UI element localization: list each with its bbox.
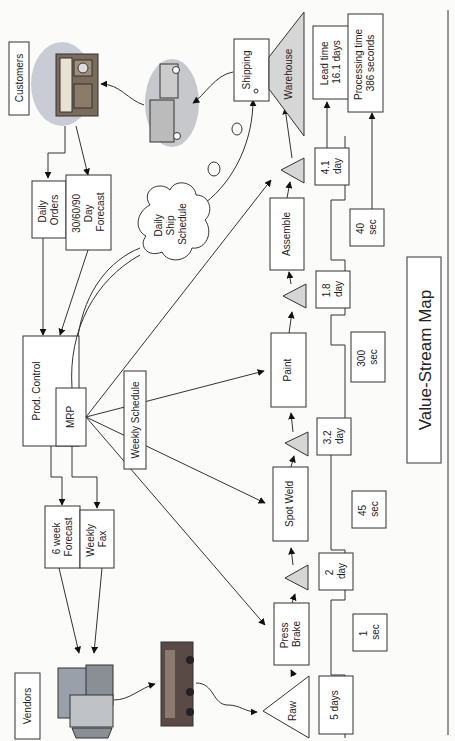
vendors-label-box: Vendors bbox=[15, 673, 40, 739]
process-time-45: 45 sec bbox=[352, 491, 386, 528]
paint-to-inv-arrow bbox=[289, 312, 292, 333]
warehouse-label: Warehouse bbox=[283, 48, 294, 99]
wait-3-line2: day bbox=[334, 428, 345, 444]
truck-to-raw-arrow bbox=[196, 683, 257, 712]
weekly-fax-line1: Weekly bbox=[85, 524, 96, 557]
truck-icon bbox=[145, 59, 199, 147]
svg-text:40 sec: 40 sec bbox=[355, 219, 378, 235]
raw-to-pressbrake-arrow bbox=[291, 670, 294, 676]
customers-label: Customers bbox=[14, 54, 25, 102]
customers-label-box: Customers bbox=[9, 42, 29, 115]
raw-label: Raw bbox=[287, 700, 298, 721]
ptime-1-line1: 1 bbox=[358, 630, 369, 636]
inventory-triangle-4 bbox=[281, 158, 304, 183]
map-title: Value-Stream Map bbox=[416, 290, 435, 430]
wait-5-line1: 4.1 bbox=[320, 160, 331, 174]
press-brake-line2: Brake bbox=[291, 621, 302, 648]
weekly-schedule-box: Weekly Schedule bbox=[124, 371, 146, 469]
title-box: Value-Stream Map bbox=[407, 257, 441, 463]
svg-text:Processing time 386 seco: Processing time 386 seconds bbox=[353, 26, 376, 100]
schedule-to-spotweld-arrow bbox=[86, 417, 265, 503]
customer-store-icon bbox=[31, 42, 98, 126]
raw-inventory-triangle: Raw bbox=[263, 676, 309, 738]
wait-time-4: 1.8 day bbox=[316, 271, 350, 308]
wait-4-line2: day bbox=[333, 281, 344, 297]
process-assemble: Assemble bbox=[270, 198, 304, 270]
processing-time-line2: 386 seconds bbox=[365, 35, 376, 92]
ptime-40-line1: 40 bbox=[355, 222, 366, 234]
vendor-truck-icon bbox=[161, 642, 194, 726]
inventory-triangle-1 bbox=[285, 565, 308, 590]
processing-time-box: Processing time 386 seconds bbox=[348, 14, 383, 112]
shipping-to-truck-arrow bbox=[193, 72, 233, 103]
forecast-line2: Day bbox=[83, 204, 94, 222]
process-press-brake: Press Brake bbox=[274, 603, 309, 665]
cloud-line3: Schedule bbox=[177, 203, 188, 245]
wait-4-line1: 1.8 bbox=[321, 283, 332, 297]
ptime-1-line2: sec bbox=[370, 624, 381, 640]
vendor-to-truck-arrow bbox=[114, 684, 155, 700]
assemble-label: Assemble bbox=[281, 212, 292, 256]
svg-text:1.8 day: 1.8 day bbox=[321, 281, 344, 298]
process-paint: Paint bbox=[271, 333, 306, 407]
process-spot-weld: Spot Weld bbox=[273, 467, 308, 541]
forecast-to-prodcontrol-arrow bbox=[60, 250, 88, 335]
lead-time-line1: Lead time bbox=[319, 41, 330, 85]
inv-to-paint-arrow bbox=[291, 413, 293, 432]
process-time-40: 40 sec bbox=[350, 209, 384, 246]
forecast-line3: Forecast bbox=[95, 192, 106, 231]
svg-text:3.2 day: 3.2 day bbox=[322, 428, 345, 445]
ptime-40-line2: sec bbox=[367, 219, 378, 235]
prodcontrol-to-6week-arrow bbox=[51, 446, 62, 505]
lead-time-box: Lead time 16.1 days bbox=[313, 26, 351, 99]
process-time-1: 1 sec bbox=[353, 614, 387, 651]
process-shipping: Shipping bbox=[234, 39, 269, 101]
6week-to-vendor-arrow bbox=[59, 568, 79, 653]
mrp-label: MRP bbox=[65, 406, 76, 429]
mrp-to-cloud-line bbox=[72, 255, 140, 388]
spot-weld-label: Spot Weld bbox=[284, 481, 295, 527]
svg-text:Daily Orders: Daily Orders bbox=[37, 195, 60, 226]
mrp-box: MRP bbox=[56, 388, 86, 446]
svg-text:300 sec: 300 sec bbox=[356, 347, 379, 366]
svg-text:6 week Forecast: 6 week Forecast bbox=[51, 517, 74, 556]
svg-text:Press Brake: Press Brake bbox=[279, 620, 302, 648]
weekly-fax-line2: Fax bbox=[97, 531, 108, 548]
cloud-line2: Ship bbox=[165, 215, 176, 235]
six-week-forecast-box: 6 week Forecast bbox=[45, 506, 80, 568]
paint-label: Paint bbox=[282, 358, 293, 381]
shipping-label: Shipping bbox=[241, 51, 252, 90]
ptime-300-line1: 300 bbox=[356, 350, 367, 367]
cloud-to-shipping-arrow bbox=[205, 100, 253, 203]
wait-3-line1: 3.2 bbox=[322, 430, 333, 444]
assemble-to-inv-arrow bbox=[287, 182, 290, 198]
daily-orders-line2: Orders bbox=[49, 195, 60, 226]
press-brake-line1: Press bbox=[279, 623, 290, 649]
schedule-to-paint-arrow bbox=[86, 371, 264, 417]
six-week-line1: 6 week bbox=[51, 522, 62, 555]
six-week-line2: Forecast bbox=[63, 517, 74, 556]
weekly-fax-box: Weekly Fax bbox=[80, 510, 114, 568]
daily-ship-schedule-cloud: Daily Ship Schedule bbox=[138, 183, 210, 260]
prod-control-label: Prod. Control bbox=[31, 362, 42, 421]
wait-time-5: 4.1 day bbox=[315, 148, 349, 185]
mrp-to-fax-arrow bbox=[72, 446, 97, 508]
wait-5-line2: day bbox=[332, 158, 343, 174]
process-time-300: 300 sec bbox=[351, 332, 385, 382]
svg-text:Lead time 16.1 days: Lead time 16.1 days bbox=[319, 39, 342, 86]
ptime-45-line2: sec bbox=[369, 501, 380, 517]
fax-to-vendor-arrow bbox=[94, 568, 102, 653]
forecast-line1: 30/60/90 bbox=[71, 193, 82, 232]
daily-orders-line1: Daily bbox=[37, 200, 48, 222]
wait-2-line2: day bbox=[336, 563, 347, 579]
inventory-triangle-2 bbox=[285, 432, 308, 456]
processing-time-line1: Processing time bbox=[353, 28, 364, 100]
svg-text:4.1 day: 4.1 day bbox=[320, 158, 343, 175]
lead-time-line2: 16.1 days bbox=[331, 40, 342, 83]
ptime-300-line2: sec bbox=[368, 349, 379, 365]
wait-time-3: 3.2 day bbox=[317, 418, 351, 455]
thought-bubble-large bbox=[208, 162, 220, 176]
customer-to-forecast-arrow bbox=[76, 126, 88, 175]
wait-2-line1: 2 bbox=[324, 569, 335, 575]
truck-to-customer-arrow bbox=[101, 84, 144, 105]
